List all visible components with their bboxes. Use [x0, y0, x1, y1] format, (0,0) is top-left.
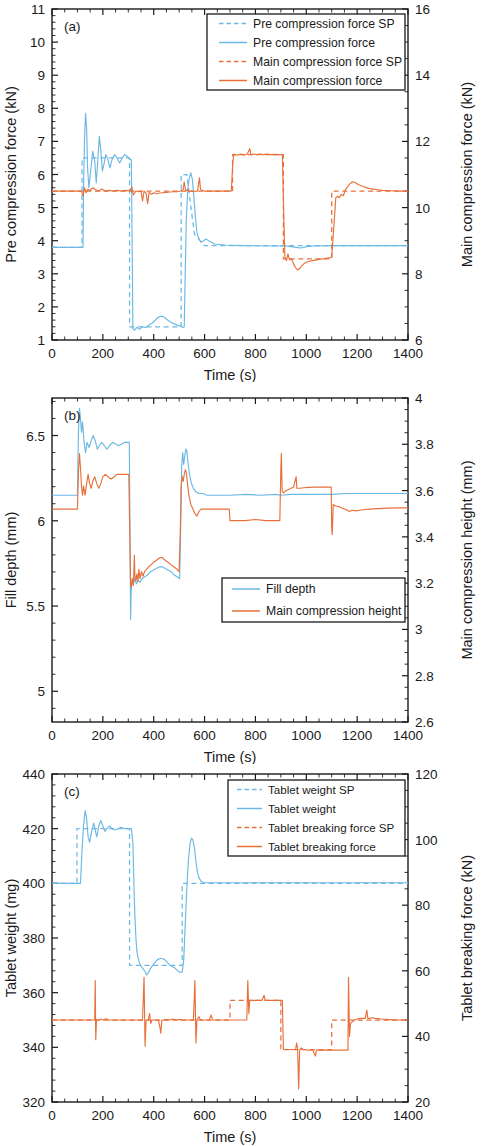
y2-tick-label: 40 — [415, 1029, 430, 1044]
legend-label-4: Tablet breaking force — [268, 840, 376, 853]
legend-label-3: Main compression force SP — [253, 55, 402, 69]
legend-label-2: Pre compression force — [253, 36, 375, 50]
x-axis-title: Time (s) — [204, 367, 257, 382]
y2-tick-label: 3.6 — [415, 484, 434, 499]
chart-panel-b: 020040060080010001200140055.566.52.62.83… — [0, 382, 482, 764]
panel-tag: (a) — [64, 19, 81, 34]
y-tick-label: 5.5 — [26, 599, 45, 614]
y2-tick-label: 6 — [415, 333, 423, 348]
y2-axis-title: Tablet breaking force (kN) — [459, 855, 475, 1021]
y-tick-label: 360 — [22, 986, 45, 1001]
y-axis-title: Pre compression force (kN) — [3, 86, 19, 262]
y-tick-label: 1 — [37, 333, 45, 348]
y2-axis-title: Main compression force (kN) — [459, 82, 475, 267]
y-axis-title: Tablet weight (mg) — [3, 879, 19, 997]
y2-tick-label: 100 — [415, 833, 438, 848]
x-axis-title: Time (s) — [204, 1129, 257, 1145]
x-tick-label: 1400 — [393, 346, 423, 361]
chart-panel-c: 0200400600800100012001400320340360380400… — [0, 764, 482, 1146]
legend-label-2: Main compression height — [266, 604, 402, 618]
y2-tick-label: 80 — [415, 898, 430, 913]
y-tick-label: 9 — [37, 68, 45, 83]
y-tick-label: 400 — [22, 876, 45, 891]
y-tick-label: 5 — [37, 684, 45, 699]
x-tick-label: 200 — [92, 1108, 115, 1123]
y-tick-label: 6 — [37, 168, 45, 183]
y-tick-label: 340 — [22, 1040, 45, 1055]
x-tick-label: 800 — [244, 346, 267, 361]
x-tick-label: 200 — [92, 728, 115, 743]
y-tick-label: 420 — [22, 822, 45, 837]
x-tick-label: 1400 — [393, 1108, 423, 1123]
y2-tick-label: 16 — [415, 2, 430, 17]
y-tick-label: 5 — [37, 201, 45, 216]
y2-tick-label: 2.8 — [415, 669, 434, 684]
y-tick-label: 380 — [22, 931, 45, 946]
x-tick-label: 0 — [48, 346, 56, 361]
x-tick-label: 1200 — [342, 1108, 372, 1123]
y2-tick-label: 120 — [415, 767, 438, 782]
y2-tick-label: 3.2 — [415, 576, 434, 591]
legend-label-1: Fill depth — [266, 582, 315, 596]
x-tick-label: 400 — [142, 728, 165, 743]
x-tick-label: 1200 — [342, 346, 372, 361]
y2-tick-label: 2.6 — [415, 715, 434, 730]
x-axis-title: Time (s) — [204, 749, 257, 764]
y2-tick-label: 3 — [415, 622, 423, 637]
legend-label-1: Tablet weight SP — [268, 783, 355, 796]
x-tick-label: 1000 — [291, 728, 321, 743]
y2-tick-label: 3.8 — [415, 437, 434, 452]
y-tick-label: 7 — [37, 134, 45, 149]
panel-tag: (c) — [64, 784, 80, 799]
y-tick-label: 10 — [30, 35, 45, 50]
figure-root: 0200400600800100012001400123456789101168… — [0, 0, 482, 1146]
y2-tick-label: 14 — [415, 68, 431, 83]
x-tick-label: 1000 — [291, 1108, 321, 1123]
legend-label-2: Tablet weight — [268, 802, 336, 815]
panel-b-svg: 020040060080010001200140055.566.52.62.83… — [0, 382, 482, 764]
y-tick-label: 11 — [31, 2, 45, 17]
panel-a-svg: 0200400600800100012001400123456789101168… — [0, 0, 482, 382]
legend-label-1: Pre compression force SP — [253, 17, 395, 31]
x-tick-label: 600 — [193, 728, 216, 743]
y2-axis-title: Main compression height (mm) — [459, 460, 475, 659]
y-tick-label: 4 — [37, 234, 45, 249]
y2-tick-label: 4 — [415, 391, 423, 406]
x-tick-label: 0 — [48, 1108, 56, 1123]
y2-tick-label: 60 — [415, 964, 430, 979]
y2-tick-label: 12 — [415, 134, 430, 149]
y-tick-label: 3 — [37, 267, 45, 282]
x-tick-label: 1200 — [342, 728, 372, 743]
x-tick-label: 0 — [48, 728, 56, 743]
panel-tag: (b) — [64, 408, 81, 423]
panel-c-svg: 0200400600800100012001400320340360380400… — [0, 764, 482, 1146]
x-tick-label: 800 — [244, 1108, 267, 1123]
y2-tick-label: 8 — [415, 267, 423, 282]
y-tick-label: 8 — [37, 101, 45, 116]
x-tick-label: 400 — [142, 346, 165, 361]
y-axis-title: Fill depth (mm) — [3, 512, 19, 609]
legend-label-3: Tablet breaking force SP — [268, 821, 395, 834]
x-tick-label: 600 — [193, 1108, 216, 1123]
chart-panel-a: 0200400600800100012001400123456789101168… — [0, 0, 482, 382]
x-tick-label: 1000 — [291, 346, 321, 361]
y-tick-label: 6.5 — [26, 429, 45, 444]
y2-tick-label: 3.4 — [415, 530, 434, 545]
y-tick-label: 440 — [22, 767, 45, 782]
y2-tick-label: 20 — [415, 1095, 430, 1110]
x-tick-label: 800 — [244, 728, 267, 743]
x-tick-label: 600 — [193, 346, 216, 361]
x-tick-label: 400 — [142, 1108, 165, 1123]
y2-tick-label: 10 — [415, 201, 430, 216]
x-tick-label: 1400 — [393, 728, 423, 743]
y-tick-label: 6 — [37, 514, 45, 529]
y-tick-label: 2 — [37, 300, 45, 315]
x-tick-label: 200 — [92, 346, 115, 361]
legend-label-4: Main compression force — [253, 74, 383, 88]
y-tick-label: 320 — [22, 1095, 45, 1110]
